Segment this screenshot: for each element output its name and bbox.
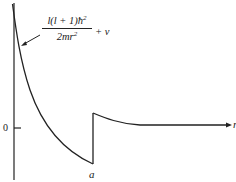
annotation-leader: [24, 35, 40, 44]
fraction-bar: [42, 28, 92, 29]
outer-potential-curve: [93, 113, 226, 125]
effective-potential-formula: l(l + 1)ħ2 2mr2: [42, 15, 92, 42]
potential-diagram: [0, 0, 236, 182]
r-axis-arrowhead-icon: [226, 123, 232, 128]
annotation-arrowhead-icon: [21, 41, 27, 46]
zero-tick-label: 0: [3, 123, 8, 133]
formula-numerator: l(l + 1)ħ2: [42, 15, 92, 27]
formula-denominator: 2mr2: [42, 30, 92, 42]
r-axis-label: r: [233, 119, 236, 130]
formula-suffix: + v: [95, 27, 109, 38]
a-marker-label: a: [89, 169, 95, 180]
